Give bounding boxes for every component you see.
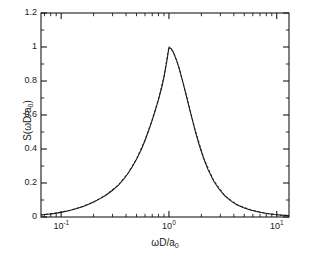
x-tick-label: 100 [149, 221, 189, 231]
y-tick-label: 1 [32, 42, 37, 51]
y-tick-label-wrap: 0.8 [0, 76, 37, 85]
y-tick-label-wrap: 0 [0, 212, 37, 221]
x-axis-ticks [44, 13, 276, 217]
series-dashed-curve [41, 46, 289, 215]
y-tick-label-wrap: 1 [0, 42, 37, 51]
x-tick-mantissa: 10 [162, 221, 172, 231]
series-solid-curve [41, 48, 289, 216]
y-tick-label: 0.2 [24, 178, 37, 187]
plot-frame [41, 13, 289, 217]
x-tick-exponent: 1 [280, 219, 284, 226]
y-tick-label-wrap: 1.2 [0, 8, 37, 17]
axes-frame [41, 13, 289, 217]
y-tick-label-wrap: 0.6 [0, 110, 37, 119]
x-tick-label: 101 [257, 221, 297, 231]
x-tick-exponent: -1 [64, 219, 69, 226]
y-axis-ticks [41, 13, 289, 217]
y-tick-label-wrap: 0.4 [0, 144, 37, 153]
y-tick-label: 1.2 [24, 8, 37, 17]
data-series-group [41, 46, 289, 215]
x-tick-exponent: 0 [172, 219, 176, 226]
y-tick-label-wrap: 0.2 [0, 178, 37, 187]
x-tick-label: 10-1 [41, 221, 81, 231]
y-tick-label: 0.6 [24, 110, 37, 119]
x-tick-mantissa: 10 [270, 221, 280, 231]
y-tick-label: 0.4 [24, 144, 37, 153]
y-tick-label: 0.8 [24, 76, 37, 85]
y-tick-label: 0 [32, 212, 37, 221]
chart-figure: S(ωD/a0) ωD/a0 00.20.40.60.811.2 10-1100… [0, 0, 310, 259]
x-tick-mantissa: 10 [54, 221, 64, 231]
